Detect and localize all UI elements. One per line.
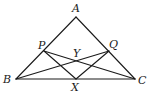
segment-qx xyxy=(76,51,109,79)
segment-px xyxy=(44,51,76,79)
label-a: A xyxy=(71,2,80,15)
label-c: C xyxy=(138,74,147,87)
label-x: X xyxy=(70,81,80,94)
label-q: Q xyxy=(109,38,118,51)
label-p: P xyxy=(37,39,46,52)
label-y: Y xyxy=(73,47,82,60)
label-b: B xyxy=(2,73,11,86)
triangle-diagram: A P Q Y B C X xyxy=(0,0,153,95)
